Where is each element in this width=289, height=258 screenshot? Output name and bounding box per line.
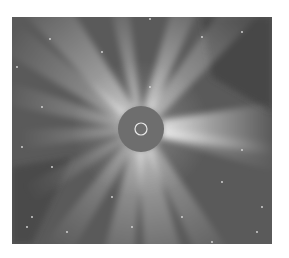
occulting-disk (118, 106, 164, 152)
star (41, 106, 43, 108)
star (256, 231, 258, 233)
corona-graphic (12, 17, 272, 244)
star (181, 216, 183, 218)
star (241, 31, 243, 33)
star (66, 231, 68, 233)
star (16, 66, 18, 68)
star (51, 166, 53, 168)
star (49, 38, 51, 40)
star (101, 51, 103, 53)
star (31, 216, 33, 218)
star (111, 196, 113, 198)
coronagraph-image (12, 17, 272, 244)
star (21, 146, 23, 148)
star (149, 18, 151, 20)
star (149, 86, 151, 88)
star (131, 226, 133, 228)
star (211, 241, 213, 243)
star (201, 36, 203, 38)
star (241, 149, 243, 151)
star (26, 226, 28, 228)
star (221, 181, 223, 183)
star (261, 206, 263, 208)
